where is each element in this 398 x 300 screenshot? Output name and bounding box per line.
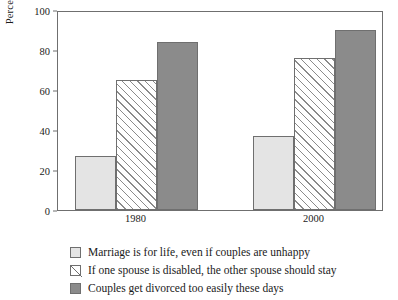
legend-item: If one spouse is disabled, the other spo… [70,261,337,279]
y-tick-mark [53,11,57,12]
bar-chart: Percentage agree 020406080100 19802000 M… [0,0,398,300]
legend-label: If one spouse is disabled, the other spo… [88,264,337,277]
y-tick-mark [53,211,57,212]
legend: Marriage is for life, even if couples ar… [70,243,337,297]
bar [75,156,116,210]
y-tick-mark [53,51,57,52]
legend-label: Marriage is for life, even if couples ar… [88,246,310,259]
y-tick-mark [53,91,57,92]
bar [335,30,376,210]
bar [157,42,198,210]
bar-hatch-pattern [295,59,334,209]
plot-area [57,11,383,211]
y-axis-title: Percentage agree [4,0,15,52]
bar [116,80,157,210]
legend-item: Couples get divorced too easily these da… [70,279,337,297]
y-tick-mark [53,171,57,172]
y-tick-mark [53,131,57,132]
bar [294,58,335,210]
bar-hatch-pattern [117,81,156,209]
legend-label: Couples get divorced too easily these da… [88,282,283,295]
x-tick-label: 2000 [303,213,324,224]
x-tick-label: 1980 [125,213,146,224]
legend-swatch-icon [70,283,81,294]
plot-inner [58,12,382,210]
legend-swatch-icon [70,247,81,258]
legend-item: Marriage is for life, even if couples ar… [70,243,337,261]
bar [253,136,294,210]
legend-swatch-icon [70,265,81,276]
